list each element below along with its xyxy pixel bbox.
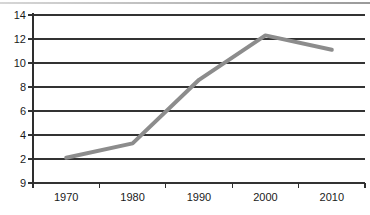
scanned-line-chart-page: 1412108642919701980199020002010 xyxy=(0,0,370,215)
x-tick-label: 2010 xyxy=(320,191,344,203)
series-line xyxy=(66,35,332,157)
y-tick-label: 9 xyxy=(20,177,26,189)
x-tick-label: 1980 xyxy=(120,191,144,203)
y-tick-label: 12 xyxy=(14,33,26,45)
y-tick-label: 8 xyxy=(20,81,26,93)
y-tick-label: 6 xyxy=(20,105,26,117)
x-tick-label: 2000 xyxy=(253,191,277,203)
x-tick-label: 1970 xyxy=(54,191,78,203)
y-tick-label: 4 xyxy=(20,129,26,141)
y-tick-label: 14 xyxy=(14,9,26,21)
y-tick-label: 2 xyxy=(20,153,26,165)
y-tick-label: 10 xyxy=(14,57,26,69)
x-tick-label: 1990 xyxy=(187,191,211,203)
chart-canvas: 1412108642919701980199020002010 xyxy=(0,0,370,215)
line-chart: 1412108642919701980199020002010 xyxy=(0,0,370,215)
